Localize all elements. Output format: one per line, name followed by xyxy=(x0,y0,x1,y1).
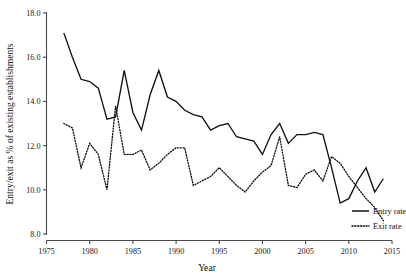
x-tick-label: 1990 xyxy=(168,247,184,256)
x-axis-tick-labels: 197519801985199019952000200520102015 xyxy=(38,247,400,256)
y-tick-label: 16.0 xyxy=(26,53,40,62)
y-tick-label: 12.0 xyxy=(26,142,40,151)
y-tick-label: 8.0 xyxy=(30,230,40,239)
y-axis-title: Entry/exit as % of existing establishmen… xyxy=(4,43,15,204)
series-entry-rate xyxy=(64,33,384,203)
x-tick-label: 1975 xyxy=(38,247,54,256)
y-tick-label: 18.0 xyxy=(26,9,40,18)
entry-exit-rate-line-chart: 8.010.012.014.016.018.0 1975198019851990… xyxy=(0,0,406,280)
y-tick-label: 14.0 xyxy=(26,97,40,106)
chart-figure: 8.010.012.014.016.018.0 1975198019851990… xyxy=(0,0,406,280)
y-axis: 8.010.012.014.016.018.0 xyxy=(26,9,46,239)
chart-legend: Entry rate Exit rate xyxy=(352,207,406,231)
x-tick-label: 2015 xyxy=(384,247,400,256)
series-exit-rate xyxy=(64,106,384,221)
data-series xyxy=(64,33,384,221)
x-axis: 197519801985199019952000200520102015 xyxy=(38,241,400,256)
y-tick-label: 10.0 xyxy=(26,186,40,195)
y-axis-tick-labels: 8.010.012.014.016.018.0 xyxy=(26,9,40,239)
x-tick-label: 2005 xyxy=(297,247,313,256)
x-tick-label: 1980 xyxy=(82,247,98,256)
x-tick-label: 2000 xyxy=(254,247,270,256)
x-tick-label: 1995 xyxy=(211,247,227,256)
x-tick-label: 1985 xyxy=(125,247,141,256)
x-tick-label: 2010 xyxy=(341,247,357,256)
legend-label-exit-rate: Exit rate xyxy=(373,222,402,231)
legend-label-entry-rate: Entry rate xyxy=(373,207,406,216)
x-axis-title: Year xyxy=(198,262,216,273)
